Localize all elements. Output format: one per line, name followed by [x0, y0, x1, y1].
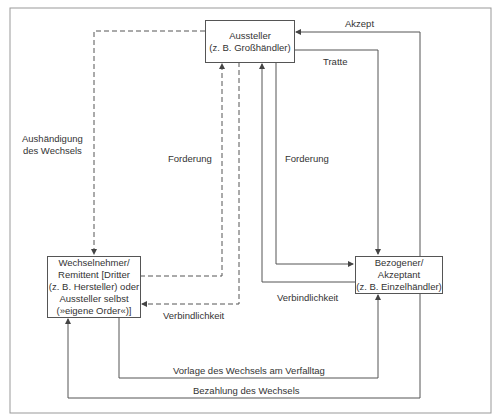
node-label: Remittent [Dritter	[49, 269, 139, 281]
node-bezogener: Bezogener/Akzeptant(z. B. Einzelhändler)	[355, 256, 443, 294]
node-label: (z. B. Hersteller) oder	[49, 281, 139, 293]
edge-tratte	[294, 50, 378, 254]
node-label: Wechselnehmer/	[49, 257, 139, 269]
node-wechselnehmer: Wechselnehmer/Remittent [Dritter(z. B. H…	[47, 256, 141, 318]
label-line: Aushändigung	[22, 133, 83, 145]
label-verbindlichkeit-left: Verbindlichkeit	[163, 310, 224, 322]
node-aussteller: Aussteller(z. B. Großhändler)	[205, 20, 295, 63]
node-label: (z. B. Einzelhändler)	[356, 281, 442, 293]
node-label: Aussteller selbst	[49, 293, 139, 305]
node-label: Aussteller	[209, 30, 290, 42]
label-line: des Wechsels	[22, 145, 83, 157]
label-aushaendigung: Aushändigung des Wechsels	[22, 133, 83, 157]
label-forderung-right: Forderung	[285, 153, 329, 165]
diagram-lines	[0, 0, 496, 420]
label-verbindlichkeit-right: Verbindlichkeit	[277, 292, 338, 304]
label-tratte: Tratte	[323, 56, 347, 68]
edge-forderung-left	[140, 64, 222, 276]
outer-frame	[10, 8, 491, 413]
label-vorlage: Vorlage des Wechsels am Verfalltag	[173, 365, 325, 377]
edge-aushaendigung	[94, 31, 205, 254]
node-label: Bezogener/	[356, 257, 442, 269]
label-akzept: Akzept	[345, 18, 374, 30]
label-bezahlung: Bezahlung des Wechsels	[193, 385, 300, 397]
edge-akzept	[296, 32, 420, 256]
node-label: (»eigene Order«)]	[49, 305, 139, 317]
node-label: (z. B. Großhändler)	[209, 42, 290, 54]
node-label: Akzeptant	[356, 269, 442, 281]
edge-verbindlichkeit-left	[142, 62, 239, 304]
label-forderung-left: Forderung	[168, 153, 212, 165]
